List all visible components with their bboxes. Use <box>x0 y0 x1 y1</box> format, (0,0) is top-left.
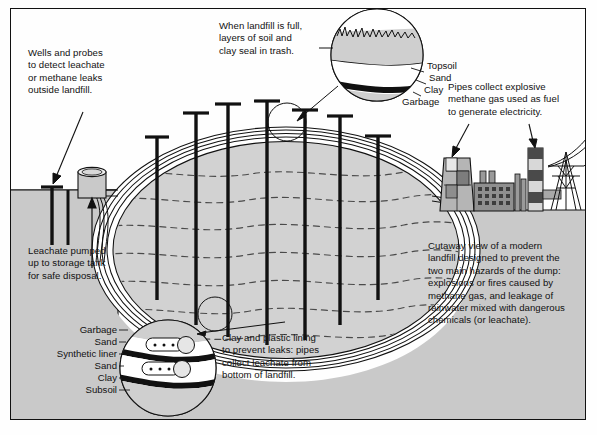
landfill-diagram: Wells and probes to detect leachate or m… <box>0 0 597 435</box>
label-synthetic-liner: Synthetic liner <box>7 348 117 360</box>
label-clay-top: Clay <box>424 84 443 96</box>
caption-leachate-pumped: Leachate pumped up to storage tank for s… <box>28 245 150 282</box>
label-topsoil: Topsoil <box>427 60 457 72</box>
methane-fuelled-power-plant <box>440 148 561 211</box>
caption-overview: Cutaway view of a modern landfill design… <box>428 240 584 327</box>
label-sand-top: Sand <box>429 72 451 84</box>
label-sand-upper: Sand <box>17 336 117 348</box>
caption-liner-description: Clay and plastic lining to prevent leaks… <box>222 332 354 382</box>
caption-wells-and-probes: Wells and probes to detect leachate or m… <box>28 47 148 97</box>
leachate-storage-tank <box>78 167 106 198</box>
caption-cap-seal: When landfill is full, layers of soil an… <box>219 20 341 57</box>
caption-methane-pipes: Pipes collect explosive methane gas used… <box>448 81 594 118</box>
label-sand-lower: Sand <box>17 360 117 372</box>
power-lines <box>548 134 592 167</box>
label-subsoil: Subsoil <box>17 384 117 396</box>
label-garbage-top: Garbage <box>402 96 439 108</box>
label-garbage-bottom: Garbage <box>17 324 117 336</box>
label-clay-bottom: Clay <box>17 372 117 384</box>
